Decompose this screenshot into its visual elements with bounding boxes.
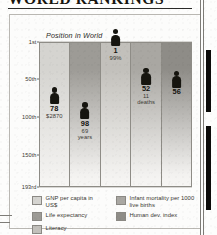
legend-item[interactable]: GNP per capita in US$ — [32, 195, 105, 208]
legend-swatch — [116, 212, 126, 221]
column-fill — [131, 43, 160, 186]
legend-column-left: GNP per capita in US$Life expectancyLite… — [32, 195, 105, 234]
legend-swatch — [32, 196, 42, 205]
margin-rule-bottom-left-2 — [0, 222, 10, 223]
person-head-icon — [174, 71, 179, 76]
y-axis-tick-label: 150th — [22, 152, 37, 158]
margin-artifact-bottom — [206, 126, 211, 210]
margin-rule-right-inner — [200, 0, 201, 235]
marker-value-label: $2870 — [39, 113, 70, 119]
marker-value-label: deaths — [131, 99, 162, 105]
legend-swatch — [116, 196, 126, 205]
legend-item[interactable]: Human dev. index — [116, 212, 200, 222]
person-head-icon — [113, 29, 118, 34]
person-head-icon — [143, 68, 148, 73]
y-axis-tick-label: 1st — [29, 39, 37, 45]
y-axis-tick-label: 100th — [22, 114, 37, 120]
plot-area: 1st50th100th150th193rd 78$28709869years1… — [39, 42, 192, 187]
category-column[interactable] — [131, 43, 161, 186]
marker-value-label: years — [70, 134, 101, 140]
column-fill — [101, 43, 130, 186]
y-axis-tick-mark — [37, 79, 40, 80]
data-marker[interactable]: 9869years — [70, 102, 101, 140]
legend-swatch — [32, 225, 42, 234]
data-marker[interactable]: 199% — [100, 29, 131, 61]
person-icon — [48, 87, 61, 104]
column-fill — [162, 43, 191, 186]
headline-text: WORLD RANKINGS — [8, 0, 191, 6]
person-head-icon — [52, 87, 57, 92]
marker-rank-label: 78 — [39, 105, 70, 113]
margin-rule-right-outer — [203, 0, 204, 235]
person-body-icon — [80, 108, 89, 119]
legend-column-right: Infant mortality per 1000 live birthsHum… — [116, 195, 200, 234]
scanned-page: WORLD RANKINGS Position in World 1st50th… — [0, 0, 217, 235]
marker-rank-label: 1 — [100, 47, 131, 55]
person-body-icon — [111, 35, 120, 46]
legend: GNP per capita in US$Life expectancyLite… — [32, 195, 200, 234]
person-icon — [170, 71, 183, 88]
y-axis-tick-mark — [37, 42, 40, 43]
y-axis-tick-label: 50th — [25, 76, 36, 82]
margin-rule-bottom-left — [0, 215, 12, 216]
axis-title: Position in World — [46, 31, 102, 40]
legend-item-label: GNP per capita in US$ — [46, 195, 105, 208]
y-axis-tick-mark — [37, 187, 40, 188]
marker-rank-label: 98 — [70, 120, 101, 128]
person-icon — [78, 102, 91, 119]
person-icon — [140, 68, 153, 85]
legend-item[interactable]: Literacy — [32, 225, 105, 235]
person-body-icon — [50, 93, 59, 104]
legend-item[interactable]: Life expectancy — [32, 212, 105, 222]
legend-item[interactable]: Infant mortality per 1000 live births — [116, 195, 200, 208]
category-column[interactable] — [162, 43, 191, 186]
person-body-icon — [142, 73, 151, 84]
marker-rank-label: 52 — [131, 85, 162, 93]
legend-item-label: Life expectancy — [46, 212, 88, 219]
y-axis-tick-label: 193rd — [22, 184, 37, 190]
y-axis-tick-mark — [37, 154, 40, 155]
headline-rule — [8, 8, 192, 9]
person-head-icon — [82, 102, 87, 107]
marker-rank-label: 56 — [161, 88, 192, 96]
legend-item-label: Human dev. index — [129, 212, 177, 219]
figure-box: Position in World 1st50th100th150th193rd… — [9, 14, 201, 229]
data-marker[interactable]: 56 — [161, 71, 192, 97]
marker-value-label: 99% — [100, 55, 131, 61]
person-body-icon — [172, 76, 181, 87]
legend-item-label: Infant mortality per 1000 live births — [129, 195, 200, 208]
data-marker[interactable]: 78$2870 — [39, 87, 70, 119]
data-marker[interactable]: 5211deaths — [131, 68, 162, 106]
margin-artifact-top — [206, 50, 211, 112]
page-headline: WORLD RANKINGS — [8, 0, 191, 6]
legend-item-label: Literacy — [46, 225, 67, 232]
person-icon — [109, 29, 122, 46]
category-column[interactable] — [101, 43, 131, 186]
legend-swatch — [32, 212, 42, 221]
